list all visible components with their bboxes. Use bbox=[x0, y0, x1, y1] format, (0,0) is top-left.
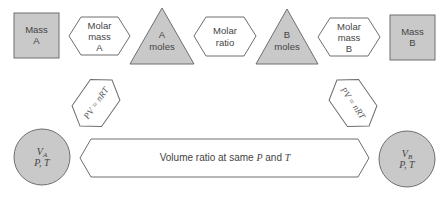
b-moles-line2: moles bbox=[274, 41, 300, 52]
molar-mass-a-line3: A bbox=[96, 42, 103, 53]
volume-ratio-label: Volume ratio at same P and T bbox=[160, 152, 292, 163]
mass-a-box: Mass A bbox=[14, 13, 59, 58]
molar-mass-a-hexagon: Molar mass A bbox=[69, 17, 130, 55]
a-moles-triangle: A moles bbox=[130, 8, 194, 64]
gas-law-left-hexagon: PV = nRT bbox=[65, 70, 127, 137]
gas-law-right-hexagon: PV = nRT bbox=[322, 70, 384, 137]
b-moles-line1: B bbox=[284, 29, 290, 40]
volume-a-circle: VA P, T bbox=[14, 129, 70, 185]
molar-mass-b-line2: mass bbox=[338, 32, 361, 43]
a-moles-line1: A bbox=[159, 29, 166, 40]
mass-b-line2: B bbox=[409, 37, 415, 48]
volume-ratio-hexagon: Volume ratio at same P and T bbox=[80, 139, 369, 177]
mass-b-box: Mass B bbox=[390, 15, 435, 60]
molar-mass-a-line1: Molar bbox=[88, 20, 112, 31]
molar-mass-b-line3: B bbox=[346, 43, 352, 54]
mass-a-line1: Mass bbox=[25, 24, 48, 35]
stoichiometry-diagram: Mass A Molar mass A A moles Molar ratio … bbox=[0, 0, 441, 201]
volume-b-circle: VB P, T bbox=[379, 131, 435, 187]
b-moles-triangle: B moles bbox=[256, 9, 318, 64]
molar-mass-b-hexagon: Molar mass B bbox=[318, 18, 380, 56]
volume-b-conditions: P, T bbox=[398, 159, 416, 170]
volume-a-conditions: P, T bbox=[33, 157, 51, 168]
mass-b-line1: Mass bbox=[401, 26, 424, 37]
molar-mass-b-line1: Molar bbox=[337, 21, 361, 32]
molar-ratio-line2: ratio bbox=[216, 37, 234, 48]
mass-a-line2: A bbox=[33, 35, 40, 46]
molar-ratio-hexagon: Molar ratio bbox=[194, 17, 256, 56]
molar-mass-a-line2: mass bbox=[88, 31, 111, 42]
a-moles-line2: moles bbox=[149, 41, 175, 52]
molar-ratio-line1: Molar bbox=[213, 25, 237, 36]
